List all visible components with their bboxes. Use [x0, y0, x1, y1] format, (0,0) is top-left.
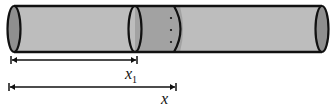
label-x: x [160, 90, 168, 107]
section-dot [170, 17, 172, 19]
right-end-cap [316, 6, 329, 52]
section-dot [170, 29, 172, 31]
dimension-arrow-x1 [11, 56, 137, 64]
left-end-cap [8, 6, 21, 52]
section-dot [170, 41, 172, 43]
rod-diagram: x1 x [0, 0, 336, 107]
label-x1: x1 [124, 65, 137, 85]
dimension-arrow-x [9, 83, 176, 91]
